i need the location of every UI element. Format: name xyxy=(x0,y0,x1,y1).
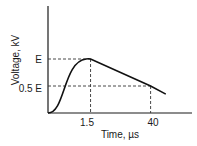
x-axis-label: Time, µs xyxy=(101,129,139,140)
x-tick-label-half-time: 40 xyxy=(147,117,159,128)
y-axis-label: Voltage, kV xyxy=(10,34,21,85)
x-tick-label-peak-time: 1.5 xyxy=(80,117,94,128)
y-tick-label-peak: E xyxy=(35,54,42,65)
y-tick-label-half: 0.5 E xyxy=(19,83,43,94)
impulse-waveform-chart: E 0.5 E 1.5 40 Time, µs Voltage, kV xyxy=(0,0,197,146)
